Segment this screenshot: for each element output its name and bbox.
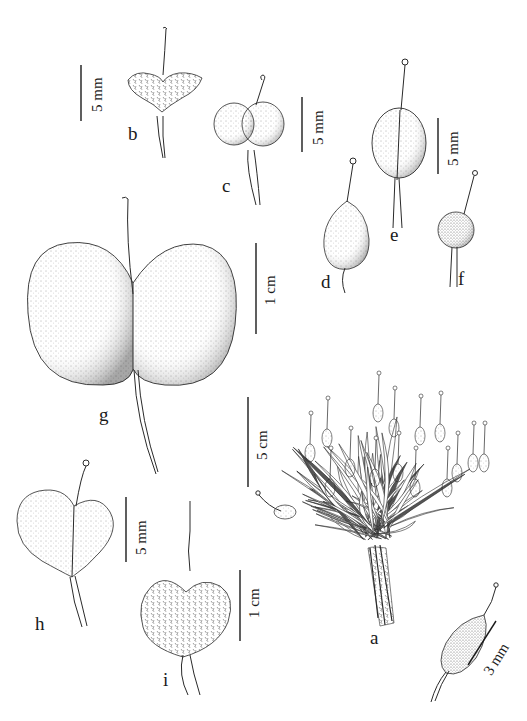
plant-fruit-style bbox=[447, 450, 448, 479]
plant-fruit bbox=[410, 479, 420, 497]
scale-label-h: 5 mm bbox=[134, 520, 149, 555]
plant-fruit bbox=[322, 429, 332, 447]
plant-fruit-style bbox=[473, 425, 474, 454]
plant-fruit bbox=[305, 444, 315, 462]
plant-fruit bbox=[415, 427, 425, 445]
plant-fruit-stigma bbox=[483, 421, 487, 425]
plant-fruit-style bbox=[440, 395, 441, 424]
plant-fruit-stigma bbox=[456, 431, 460, 435]
scale-label-a: 5 cm bbox=[255, 430, 270, 460]
scale-label-b: 5 mm bbox=[90, 77, 105, 112]
plant-fruit bbox=[373, 404, 383, 422]
label-c: c bbox=[222, 176, 230, 195]
plant-fruit-stigma bbox=[377, 371, 381, 375]
plant-fruit-style bbox=[350, 430, 351, 459]
label-e: e bbox=[390, 225, 398, 244]
plant-fruit-style bbox=[310, 415, 311, 444]
plant-fruit-stigma bbox=[374, 436, 378, 440]
plant-fruit-style bbox=[327, 400, 328, 429]
panel-h-fruit bbox=[17, 460, 113, 627]
plant-fruit-style bbox=[484, 425, 485, 454]
plant-fruit-style bbox=[398, 435, 399, 464]
label-i: i bbox=[163, 670, 168, 689]
plant-fruit bbox=[435, 424, 445, 442]
label-b: b bbox=[128, 124, 138, 143]
plant-fruit bbox=[345, 459, 355, 477]
label-f: f bbox=[458, 269, 464, 288]
panel-i-fruit bbox=[141, 501, 231, 695]
plant-fruit bbox=[452, 464, 462, 482]
plant-fruit-style bbox=[457, 435, 458, 464]
plant-fruit bbox=[442, 479, 452, 497]
plant-fruit bbox=[468, 454, 478, 472]
botanical-plate bbox=[0, 0, 527, 721]
plant-fruit-stigma bbox=[397, 431, 401, 435]
plant-fruit-style bbox=[394, 390, 395, 419]
plant-fruit bbox=[370, 469, 380, 487]
plant-fruit-stigma bbox=[419, 394, 423, 398]
panel-e-fruit bbox=[372, 59, 426, 228]
plant-fruit bbox=[393, 464, 403, 482]
label-d: d bbox=[321, 272, 331, 291]
scale-label-g: 1 cm bbox=[263, 275, 278, 305]
plant-fruit-stigma bbox=[329, 446, 333, 450]
scale-label-i: 1 cm bbox=[247, 588, 262, 618]
scale-label-ef: 5 mm bbox=[446, 131, 461, 166]
plant-fruit-style bbox=[375, 440, 376, 469]
plant-fruit-style bbox=[420, 398, 421, 427]
plant-fruit-stigma bbox=[349, 426, 353, 430]
panel-a-plant bbox=[256, 371, 489, 626]
scale-label-c: 5 mm bbox=[311, 110, 326, 145]
panel-a-detail-fruit bbox=[431, 583, 498, 702]
plant-fruit bbox=[479, 454, 489, 472]
plant-fruit-stigma bbox=[414, 446, 418, 450]
plant-fruit-stigma bbox=[393, 386, 397, 390]
plant-fruit-stigma bbox=[309, 411, 313, 415]
plant-fruit-style bbox=[378, 375, 379, 404]
panel-g-fruit bbox=[28, 197, 237, 474]
plant-fruit bbox=[325, 479, 335, 497]
plant-fruit-stigma bbox=[439, 391, 443, 395]
plant-fruit-stigma bbox=[446, 446, 450, 450]
label-h: h bbox=[35, 614, 45, 633]
plant-fruit-stigma bbox=[472, 421, 476, 425]
label-a: a bbox=[370, 628, 378, 647]
panel-b-fruit bbox=[128, 27, 202, 158]
plant-fruit-stigma bbox=[326, 396, 330, 400]
label-g: g bbox=[99, 405, 109, 424]
